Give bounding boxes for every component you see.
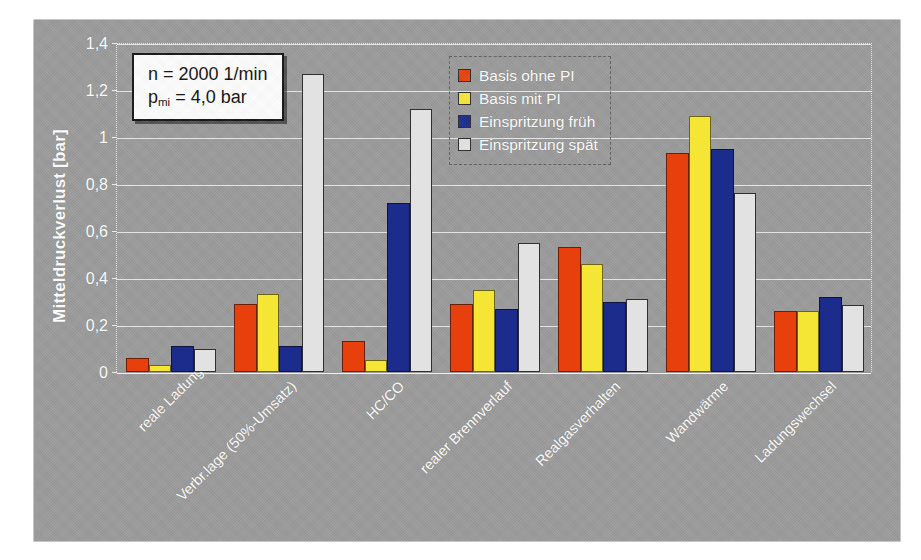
annotation-line-2-value: = 4,0 bar <box>170 87 247 107</box>
bar <box>473 290 496 372</box>
bar <box>558 247 581 372</box>
bar <box>365 360 388 372</box>
bar <box>819 297 842 372</box>
bar <box>387 203 410 372</box>
y-axis-tick-label: 0,8 <box>86 176 108 194</box>
bar <box>171 346 194 372</box>
bar <box>603 302 626 373</box>
bar <box>734 193 757 372</box>
legend-label: Einspritzung spät <box>479 136 598 154</box>
bar-group <box>333 44 441 372</box>
bar <box>518 243 541 372</box>
bar-group <box>765 44 873 372</box>
y-axis-tick-label: 1,2 <box>86 82 108 100</box>
legend-label: Basis mit PI <box>479 90 561 108</box>
bar <box>149 365 172 372</box>
bar <box>581 264 604 372</box>
bar-group <box>657 44 765 372</box>
legend-swatch-icon <box>458 115 471 128</box>
x-axis-label: Verbr.lage (50%-Umsatz) <box>166 378 299 511</box>
annotation-line-2: pmi = 4,0 bar <box>148 86 268 109</box>
legend-item[interactable]: Basis ohne PI <box>458 64 598 87</box>
bar <box>234 304 257 372</box>
bar <box>666 153 689 372</box>
y-axis-tick-label: 0,4 <box>86 270 108 288</box>
x-axis-label: HC/CO <box>198 378 407 560</box>
chart-legend: Basis ohne PIBasis mit PIEinspritzung fr… <box>449 56 611 165</box>
bar <box>342 341 365 372</box>
bar <box>689 116 712 372</box>
legend-item[interactable]: Basis mit PI <box>458 87 598 110</box>
y-axis-tick-label: 0,2 <box>86 317 108 335</box>
legend-item[interactable]: Einspritzung früh <box>458 110 598 133</box>
bar <box>279 346 302 372</box>
operating-point-annotation: n = 2000 1/min pmi = 4,0 bar <box>132 53 284 121</box>
bar <box>774 311 797 372</box>
annotation-line-2-subscript: mi <box>158 96 170 108</box>
bar <box>842 305 865 372</box>
bar <box>495 309 518 372</box>
bar <box>711 149 734 372</box>
bar <box>410 109 433 372</box>
legend-item[interactable]: Einspritzung spät <box>458 133 598 156</box>
y-axis-tick-label: 1,4 <box>86 35 108 53</box>
legend-label: Basis ohne PI <box>479 67 575 85</box>
y-axis-title: Mitteldruckverlust [bar] <box>50 76 76 376</box>
chart-canvas: Mitteldruckverlust [bar] 00,20,40,60,811… <box>34 20 900 541</box>
x-axis-label: reale Ladung <box>135 378 192 435</box>
bar <box>257 294 280 372</box>
bar <box>797 311 820 372</box>
bar <box>450 304 473 372</box>
y-axis-tick-label: 0 <box>99 364 108 382</box>
legend-label: Einspritzung früh <box>479 113 595 131</box>
legend-swatch-icon <box>458 138 471 151</box>
annotation-line-1: n = 2000 1/min <box>148 63 268 86</box>
bar <box>626 299 649 372</box>
y-axis-tick-label: 0,6 <box>86 223 108 241</box>
legend-swatch-icon <box>458 92 471 105</box>
legend-swatch-icon <box>458 69 471 82</box>
bar <box>126 358 149 372</box>
bar <box>194 349 217 373</box>
bar <box>302 74 325 372</box>
x-axis-labels: reale LadungVerbr.lage (50%-Umsatz)HC/CO… <box>116 372 872 537</box>
y-axis-tick-label: 1 <box>99 129 108 147</box>
annotation-line-2-symbol: p <box>148 87 158 107</box>
